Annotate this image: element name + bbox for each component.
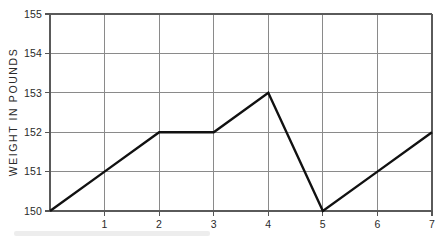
y-tick-label: 152 xyxy=(24,126,42,138)
y-tick-label: 154 xyxy=(24,47,42,59)
x-tick-label: 7 xyxy=(429,218,435,230)
x-tick-label: 2 xyxy=(156,218,162,230)
x-tick-label: 1 xyxy=(102,218,108,230)
y-tick-label: 151 xyxy=(24,165,42,177)
x-tick-label: 5 xyxy=(320,218,326,230)
y-axis-tick-labels: 150151152153154155 xyxy=(24,8,42,217)
x-tick-label: 4 xyxy=(265,218,271,230)
y-axis-ticks xyxy=(45,14,50,211)
x-axis-ticks xyxy=(105,211,432,216)
scan-artifact xyxy=(14,231,210,236)
y-tick-label: 153 xyxy=(24,87,42,99)
y-tick-label: 155 xyxy=(24,8,42,20)
weight-line-chart: 150151152153154155 1234567 WEIGHT IN POU… xyxy=(0,0,440,242)
x-tick-label: 6 xyxy=(374,218,380,230)
chart-canvas: 150151152153154155 1234567 WEIGHT IN POU… xyxy=(0,0,440,242)
y-tick-label: 150 xyxy=(24,205,42,217)
x-tick-label: 3 xyxy=(211,218,217,230)
y-axis-label: WEIGHT IN POUNDS xyxy=(7,48,19,177)
x-axis-tick-labels: 1234567 xyxy=(102,218,435,230)
